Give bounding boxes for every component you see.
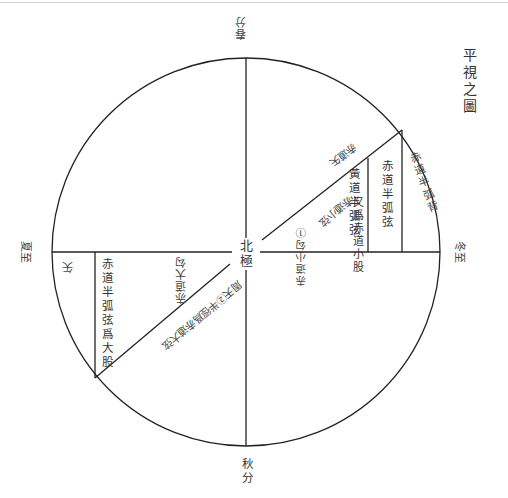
label-you-wei-chidao-xiao-gu: 又爲赤道小股 [352,196,363,274]
label-chidao-xiao-gou: 赤道小勾① [296,226,307,286]
celestial-diagram [0,0,508,498]
label-chunfen: 春分 [236,16,247,40]
label-dongzhi: 冬至 [454,241,465,263]
label-chidao-banhu-xian-wei-da-gu: 赤道半弧弦爲大股 [100,258,112,370]
label-qiufen: 秋分 [240,458,252,486]
label-chidao-banhu-xian: 赤道半弧弦 [380,160,392,230]
label-shi: 矢 [63,262,74,273]
label-chidao-da-gou: 赤道大勾 [176,256,187,304]
radius-lower-left [95,264,230,378]
label-xiazhi: 夏至 [20,241,31,263]
label-north-pole: 北極 [239,238,252,270]
diagram-title: 平視之圖 [459,48,479,116]
